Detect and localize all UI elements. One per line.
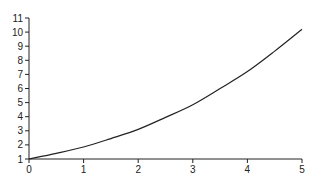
line-chart: 1234567891011 012345 (0, 0, 323, 183)
x-tick-label: 2 (135, 164, 141, 175)
y-tick-label: 1 (17, 154, 23, 165)
y-tick-label: 6 (17, 83, 23, 94)
x-tick-label: 4 (245, 164, 251, 175)
x-tick-label: 1 (81, 164, 87, 175)
data-series-curve (29, 29, 302, 159)
y-tick-label: 9 (17, 41, 23, 52)
x-axis: 012345 (26, 159, 305, 175)
y-axis: 1234567891011 (12, 13, 29, 165)
y-tick-label: 3 (17, 125, 23, 136)
y-tick-label: 4 (17, 111, 23, 122)
x-tick-label: 0 (26, 164, 32, 175)
y-tick-label: 10 (12, 27, 24, 38)
x-tick-label: 5 (299, 164, 305, 175)
y-tick-label: 2 (17, 139, 23, 150)
y-tick-label: 7 (17, 69, 23, 80)
y-tick-label: 8 (17, 55, 23, 66)
y-tick-label: 11 (13, 13, 24, 24)
x-tick-label: 3 (190, 164, 196, 175)
y-tick-label: 5 (17, 97, 23, 108)
